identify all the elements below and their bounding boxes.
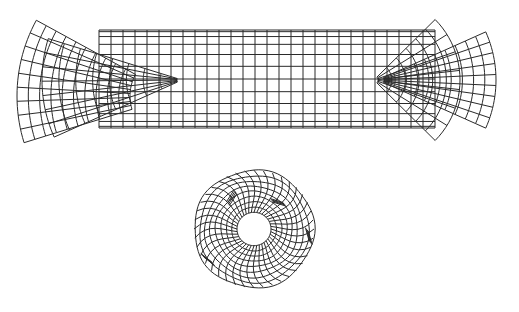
right-fan-arc-line — [383, 78, 384, 83]
right-cone-arc-line — [406, 48, 419, 111]
right-fan-arc-line — [465, 41, 473, 119]
right-cone-arc-line — [377, 77, 378, 83]
right-fan-arc-line — [424, 59, 428, 100]
ring-circle-line — [232, 207, 277, 251]
left-fan-arc-line — [17, 20, 36, 142]
left-fan-arc-line — [28, 26, 46, 140]
right-cone-arc-line — [396, 58, 405, 102]
left-fan-mesh — [17, 20, 136, 142]
right-fan-arc-line — [476, 36, 485, 123]
ring-inner-boundary — [237, 212, 271, 245]
right-cone-arc-line — [416, 39, 433, 122]
wireframe-diagram — [0, 0, 519, 312]
right-fan-arc-line — [445, 50, 451, 110]
left-fan-arc-line — [107, 64, 115, 116]
right-fan-arc-line — [486, 32, 496, 128]
right-cone-arc-line — [435, 20, 460, 141]
ring-mesh — [194, 170, 315, 288]
right-cone-mesh — [377, 20, 460, 141]
